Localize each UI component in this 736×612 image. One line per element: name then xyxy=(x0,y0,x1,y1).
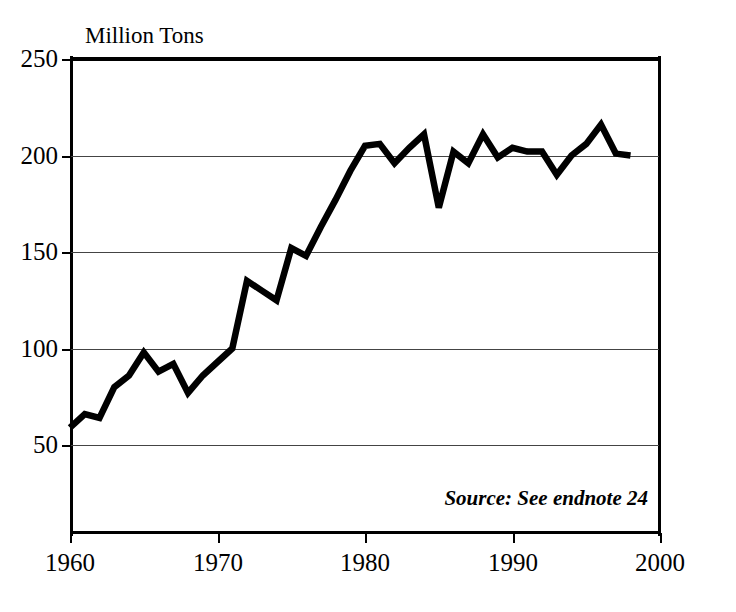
series-line-million-tons xyxy=(70,125,631,428)
source-note: Source: See endnote 24 xyxy=(420,487,648,509)
data-line-svg xyxy=(0,0,736,612)
chart-figure: Million Tons 25020015010050 196019701980… xyxy=(0,0,736,612)
